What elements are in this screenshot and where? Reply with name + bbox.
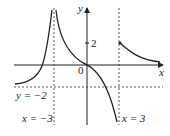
asymptote-horizontal-label: y = −2 — [15, 89, 47, 101]
asymptote-right-label: x = 3 — [121, 112, 146, 124]
y-axis-label: y — [77, 2, 83, 14]
origin-label: 0 — [78, 64, 84, 76]
curve-left-branch — [15, 10, 52, 84]
x-axis-label: x — [158, 66, 164, 78]
asymptote-left-label: x = −3 — [21, 112, 53, 124]
function-graph: y x 0 2 y = −2 x = −3 x = 3 — [0, 0, 170, 136]
closed-point-3-2 — [118, 41, 121, 44]
y-tick-2-label: 2 — [91, 37, 97, 49]
curve-right-branch — [120, 43, 160, 62]
